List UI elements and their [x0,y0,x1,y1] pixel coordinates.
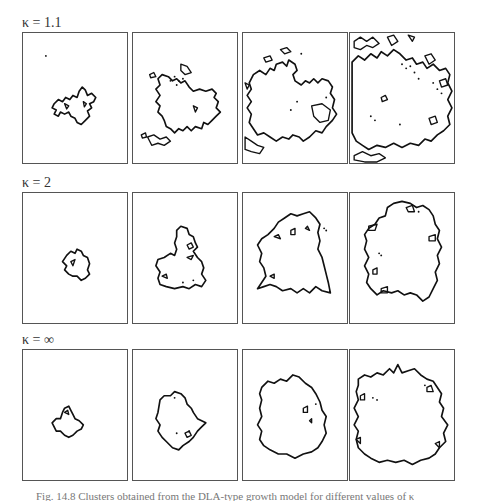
row-label-kappa: κ = ∞ [22,333,54,347]
cluster-panel [132,32,238,164]
cluster-outline [243,193,347,323]
cluster-outline [243,33,347,163]
cluster-outline [350,33,454,163]
row-label-kappa: κ = 2 [22,176,51,190]
cluster-outline [133,33,237,163]
row-label-kappa: κ = 1.1 [22,16,61,30]
cluster-outline [133,193,237,323]
cluster-outline [350,193,454,323]
cluster-panel [132,349,238,481]
cluster-panel [349,192,455,324]
cluster-panel [349,32,455,164]
cluster-outline [23,33,127,163]
figure-caption: Fig. 14.8 Clusters obtained from the DLA… [36,489,414,501]
cluster-panel [22,192,128,324]
cluster-outline [243,350,347,480]
cluster-panel [242,32,348,164]
cluster-outline [23,350,127,480]
cluster-outline [23,193,127,323]
cluster-panel [349,349,455,481]
cluster-panel [242,192,348,324]
cluster-panel [22,349,128,481]
cluster-panel [242,349,348,481]
cluster-outline [350,350,454,480]
cluster-panel [132,192,238,324]
cluster-panel [22,32,128,164]
cluster-outline [133,350,237,480]
